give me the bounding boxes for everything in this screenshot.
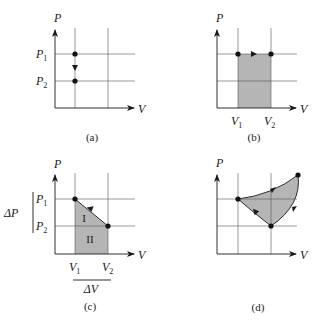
panel-c-x-axis-label: V [138,248,147,262]
tick-v1: V1 [69,260,80,276]
state-point-1 [235,51,240,56]
y-axis-label: P [53,11,62,25]
tick-p1: P1 [35,47,47,63]
process-arrow-down-icon [72,65,78,71]
x-axis-label: V [138,102,147,116]
state-point-2 [105,223,110,228]
tick-v1: V1 [231,114,242,130]
delta-v-label: ΔV [83,282,100,296]
state-point-2 [295,172,300,177]
tick-v2: V2 [102,260,113,276]
panel-a: P V P1 P2 (a) [35,11,147,144]
panel-c-y-axis-label: P [53,157,62,171]
caption-b: (b) [248,131,261,144]
state-point-2 [268,51,273,56]
tick-p1: P1 [35,192,47,208]
x-axis-label: V [300,248,309,262]
state-point-3 [268,223,273,228]
panel-b: P V V1 V2 (b) [215,11,309,144]
state-point-2 [72,78,77,83]
tick-v2: V2 [264,114,275,130]
panel-d: P V (d) [215,156,309,314]
region-label-ii: II [86,233,94,245]
y-axis-label: P [215,11,224,25]
x-axis-label: V [300,102,309,116]
caption-c: (c) [84,300,97,313]
pv-diagrams-figure: P V P1 P2 (a) P V V1 V2 (b) [0,0,324,325]
caption-a: (a) [86,131,99,144]
tick-p2: P2 [35,74,47,90]
grid-lines [55,28,135,108]
region-label-i: I [82,212,86,224]
panel-c: I II P1 P2 ΔP V1 V2 ΔV (c) [3,173,135,313]
state-point-1 [235,196,240,201]
delta-p-label: ΔP [3,206,19,220]
cycle-area [238,175,298,226]
y-axis-label: P [215,156,224,170]
caption-d: (d) [252,301,265,314]
state-point-1 [72,196,77,201]
tick-p2: P2 [35,219,47,235]
cycle-arrow-right-icon [292,206,297,212]
state-point-1 [72,51,77,56]
